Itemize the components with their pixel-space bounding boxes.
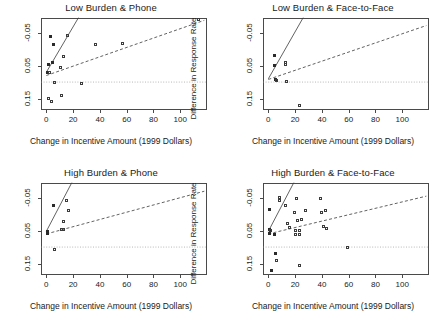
data-point xyxy=(288,226,291,229)
data-point xyxy=(278,199,281,202)
line-solid-fit xyxy=(46,183,71,232)
y-tick xyxy=(260,198,263,199)
x-tick-label: 60 xyxy=(115,280,139,289)
line-dashed-fit xyxy=(268,26,426,80)
plot-area xyxy=(263,183,429,275)
data-point xyxy=(65,199,68,202)
data-point xyxy=(46,232,49,235)
data-point xyxy=(298,104,301,107)
plot-area xyxy=(41,183,207,275)
data-point xyxy=(60,94,63,97)
y-tick xyxy=(38,66,41,67)
panel-title: High Burden & Phone xyxy=(0,167,222,178)
y-tick xyxy=(260,99,263,100)
y-tick-label: 0.15 xyxy=(245,251,254,275)
y-tick xyxy=(38,198,41,199)
y-tick-label: -0.05 xyxy=(23,20,32,44)
data-point xyxy=(94,43,97,46)
y-tick-label: 0.05 xyxy=(23,218,32,242)
x-tick-label: 0 xyxy=(34,280,58,289)
x-tick xyxy=(295,275,296,278)
panel-title: High Burden & Face-to-Face xyxy=(222,167,444,178)
data-point xyxy=(273,233,276,236)
x-tick xyxy=(295,110,296,113)
x-tick xyxy=(349,110,350,113)
x-tick xyxy=(402,110,403,113)
figure-panel-grid: Low Burden & Phone0204060801000.150.05-0… xyxy=(0,0,445,330)
x-tick xyxy=(268,275,269,278)
data-point xyxy=(275,259,278,262)
data-point xyxy=(298,233,301,236)
x-axis-label: Change in Incentive Amount (1999 Dollars… xyxy=(222,301,444,311)
x-axis-label: Change in Incentive Amount (1999 Dollars… xyxy=(222,136,444,146)
y-axis-label: Difference in Response Rate xyxy=(4,18,16,110)
y-tick xyxy=(38,264,41,265)
chart-panel-4: High Burden & Face-to-Face0204060801000.… xyxy=(222,165,444,330)
x-tick xyxy=(375,110,376,113)
y-tick xyxy=(260,264,263,265)
x-tick xyxy=(322,275,323,278)
x-tick-label: 20 xyxy=(283,280,307,289)
x-tick xyxy=(127,110,128,113)
y-tick xyxy=(38,231,41,232)
x-tick-label: 40 xyxy=(88,280,112,289)
data-point xyxy=(47,63,50,66)
y-tick xyxy=(260,231,263,232)
y-tick-label: 0.15 xyxy=(23,86,32,110)
data-point xyxy=(285,80,288,83)
x-tick xyxy=(180,110,181,113)
y-tick xyxy=(260,66,263,67)
x-tick-label: 40 xyxy=(88,115,112,124)
x-tick xyxy=(127,275,128,278)
plot-area xyxy=(263,18,429,110)
x-tick-label: 0 xyxy=(256,280,280,289)
data-point xyxy=(270,269,273,272)
x-tick xyxy=(153,275,154,278)
data-point xyxy=(197,18,200,21)
x-tick xyxy=(46,110,47,113)
x-tick-label: 60 xyxy=(337,115,361,124)
x-tick-label: 0 xyxy=(34,115,58,124)
data-point xyxy=(284,63,287,66)
data-point xyxy=(49,35,52,38)
x-tick-label: 40 xyxy=(310,115,334,124)
x-tick xyxy=(100,110,101,113)
data-point xyxy=(273,54,276,57)
data-point xyxy=(286,222,289,225)
x-tick xyxy=(322,110,323,113)
data-point xyxy=(268,232,271,235)
x-tick xyxy=(349,275,350,278)
data-point xyxy=(269,229,272,232)
y-tick-label: 0.15 xyxy=(23,251,32,275)
x-tick-label: 80 xyxy=(363,280,387,289)
regression-lines xyxy=(41,183,207,275)
y-tick-label: -0.05 xyxy=(245,185,254,209)
x-tick xyxy=(100,275,101,278)
x-tick-label: 20 xyxy=(283,115,307,124)
line-dashed-fit xyxy=(268,196,426,234)
x-tick-label: 100 xyxy=(390,115,414,124)
line-solid-fit xyxy=(268,183,293,232)
data-point xyxy=(293,211,296,214)
data-point xyxy=(53,248,56,251)
x-tick xyxy=(46,275,47,278)
x-tick-label: 60 xyxy=(115,115,139,124)
data-point xyxy=(121,42,124,45)
x-tick-label: 80 xyxy=(141,280,165,289)
y-tick-label: -0.05 xyxy=(23,185,32,209)
x-tick xyxy=(375,275,376,278)
y-tick-label: -0.05 xyxy=(245,20,254,44)
data-point xyxy=(295,197,298,200)
x-tick-label: 100 xyxy=(390,280,414,289)
y-tick xyxy=(38,99,41,100)
y-axis-label-text: Difference in Response Rate xyxy=(189,179,198,289)
data-point xyxy=(304,209,307,212)
y-tick-label: 0.05 xyxy=(23,53,32,77)
data-point xyxy=(319,197,322,200)
x-tick-label: 20 xyxy=(61,280,85,289)
regression-lines xyxy=(263,18,429,110)
data-point xyxy=(52,43,55,46)
data-point xyxy=(300,218,303,221)
x-tick xyxy=(180,275,181,278)
x-tick-label: 20 xyxy=(61,115,85,124)
